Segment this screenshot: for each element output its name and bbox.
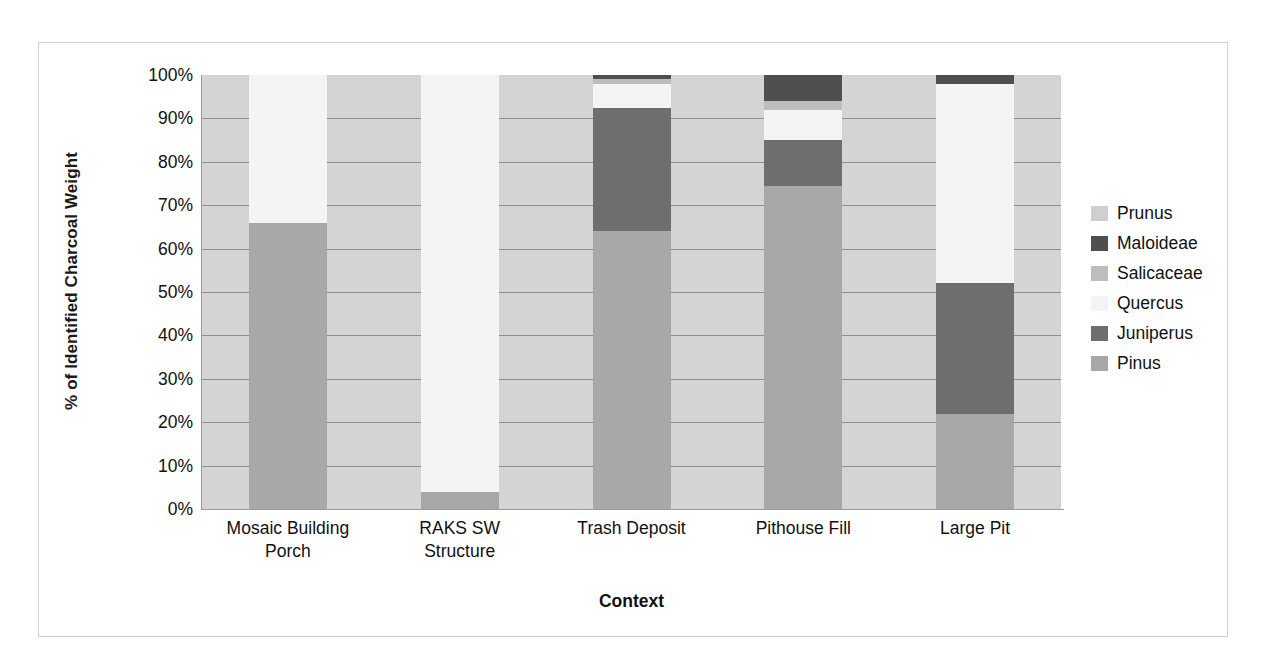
x-tick-label: RAKS SWStructure bbox=[374, 517, 546, 563]
bar-stack[interactable] bbox=[593, 75, 671, 509]
y-tick-label: 80% bbox=[93, 151, 193, 172]
x-tick-label-line: Mosaic Building bbox=[202, 517, 374, 540]
bar-segment[interactable] bbox=[593, 231, 671, 509]
bar-stack[interactable] bbox=[249, 75, 327, 509]
y-tick-label: 100% bbox=[93, 65, 193, 86]
legend-label: Juniperus bbox=[1117, 323, 1193, 344]
x-tick-label: Trash Deposit bbox=[546, 517, 718, 540]
y-tick-label: 30% bbox=[93, 368, 193, 389]
chart-screenshot: % of Identified Charcoal Weight 100%90%8… bbox=[0, 0, 1271, 672]
bar-segment[interactable] bbox=[421, 492, 499, 509]
bar-segment[interactable] bbox=[593, 108, 671, 232]
y-tick-label: 40% bbox=[93, 325, 193, 346]
x-tick-label-line: Porch bbox=[202, 540, 374, 563]
x-axis-title: Context bbox=[202, 591, 1061, 612]
x-tick-label: Mosaic BuildingPorch bbox=[202, 517, 374, 563]
y-tick-label: 70% bbox=[93, 195, 193, 216]
legend-item[interactable]: Quercus bbox=[1091, 288, 1221, 318]
legend-swatch-icon bbox=[1091, 266, 1108, 281]
x-tick-label-line: Pithouse Fill bbox=[717, 517, 889, 540]
legend-item[interactable]: Prunus bbox=[1091, 198, 1221, 228]
x-tick-label-line: Large Pit bbox=[889, 517, 1061, 540]
legend-swatch-icon bbox=[1091, 206, 1108, 221]
chart-legend: PrunusMaloideaeSalicaceaeQuercusJuniperu… bbox=[1091, 198, 1221, 378]
x-tick-label-line: Structure bbox=[374, 540, 546, 563]
bar-segment[interactable] bbox=[764, 186, 842, 509]
bar-segment[interactable] bbox=[764, 101, 842, 110]
y-tick-label: 10% bbox=[93, 455, 193, 476]
legend-swatch-icon bbox=[1091, 296, 1108, 311]
legend-item[interactable]: Juniperus bbox=[1091, 318, 1221, 348]
y-tick-label: 0% bbox=[93, 499, 193, 520]
bar-stack[interactable] bbox=[936, 75, 1014, 509]
bar-segment[interactable] bbox=[764, 75, 842, 101]
legend-swatch-icon bbox=[1091, 356, 1108, 371]
legend-item[interactable]: Maloideae bbox=[1091, 228, 1221, 258]
bar-segment[interactable] bbox=[593, 84, 671, 108]
bar-stack[interactable] bbox=[764, 75, 842, 509]
bar-segment[interactable] bbox=[249, 75, 327, 223]
legend-item[interactable]: Pinus bbox=[1091, 348, 1221, 378]
x-axis-line bbox=[202, 509, 1064, 510]
bar-segment[interactable] bbox=[249, 223, 327, 509]
legend-item[interactable]: Salicaceae bbox=[1091, 258, 1221, 288]
bar-segment[interactable] bbox=[936, 84, 1014, 284]
bar-segment[interactable] bbox=[593, 79, 671, 83]
y-tick-label: 90% bbox=[93, 108, 193, 129]
bar-stack[interactable] bbox=[421, 75, 499, 509]
legend-label: Quercus bbox=[1117, 293, 1183, 314]
bar-segment[interactable] bbox=[936, 283, 1014, 413]
legend-label: Salicaceae bbox=[1117, 263, 1203, 284]
x-tick-label-line: Trash Deposit bbox=[546, 517, 718, 540]
y-tick-label: 20% bbox=[93, 412, 193, 433]
legend-label: Prunus bbox=[1117, 203, 1172, 224]
legend-swatch-icon bbox=[1091, 236, 1108, 251]
legend-swatch-icon bbox=[1091, 326, 1108, 341]
bar-segment[interactable] bbox=[421, 75, 499, 492]
bar-segment[interactable] bbox=[764, 140, 842, 186]
plot-area bbox=[202, 75, 1061, 509]
x-tick-label: Pithouse Fill bbox=[717, 517, 889, 540]
chart-frame: % of Identified Charcoal Weight 100%90%8… bbox=[38, 42, 1228, 637]
x-tick-label-line: RAKS SW bbox=[374, 517, 546, 540]
x-tick-label: Large Pit bbox=[889, 517, 1061, 540]
bar-segment[interactable] bbox=[593, 75, 671, 79]
bar-segment[interactable] bbox=[764, 110, 842, 140]
legend-label: Pinus bbox=[1117, 353, 1161, 374]
y-tick-label: 50% bbox=[93, 282, 193, 303]
y-axis-tick-labels: 100%90%80%70%60%50%40%30%20%10%0% bbox=[53, 43, 193, 543]
bar-segment[interactable] bbox=[936, 414, 1014, 509]
legend-label: Maloideae bbox=[1117, 233, 1198, 254]
y-tick-label: 60% bbox=[93, 238, 193, 259]
bar-segment[interactable] bbox=[936, 75, 1014, 84]
